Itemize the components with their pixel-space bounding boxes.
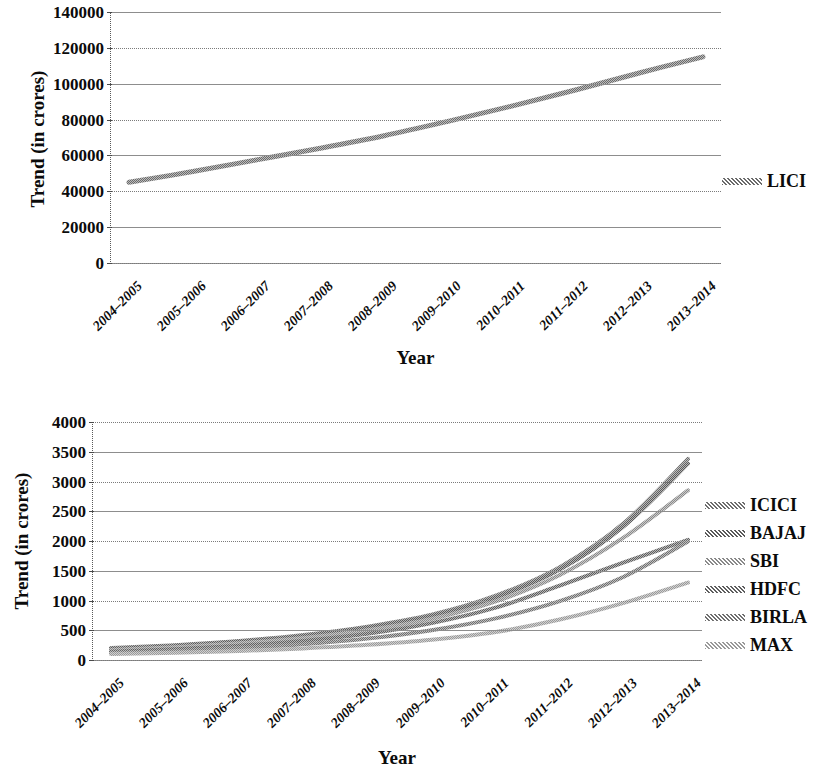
y-tick-mark <box>89 571 94 572</box>
private-insurers-trend-chart: Trend (in crores) 0500100015002000250030… <box>0 390 827 777</box>
y-tick-label: 20000 <box>62 219 105 236</box>
y-tick-mark <box>107 227 112 228</box>
gridline <box>93 571 702 572</box>
bottom-chart-plot-area <box>92 422 702 661</box>
y-tick-label: 1500 <box>52 562 86 579</box>
gridline <box>93 511 702 512</box>
gridline <box>93 422 702 423</box>
gridline <box>111 12 721 13</box>
top-chart-x-tick-labels: 2004–20052005–20062006–20072007–20082008… <box>110 270 721 340</box>
legend-item-lici[interactable]: LICI <box>722 172 806 190</box>
legend-label: LICI <box>767 172 806 190</box>
y-tick-mark <box>107 263 112 264</box>
legend-label: HDFC <box>750 580 801 598</box>
top-chart-plot-area <box>110 12 721 264</box>
y-tick-mark <box>89 601 94 602</box>
x-tick-label: 2007–2008 <box>220 278 337 395</box>
legend-swatch-icon <box>705 558 745 565</box>
legend-label: BAJAJ <box>750 524 806 542</box>
legend-swatch-icon <box>705 530 745 537</box>
legend-item-max[interactable]: MAX <box>705 636 793 654</box>
gridline <box>111 155 721 156</box>
gridline <box>93 452 702 453</box>
y-tick-label: 140000 <box>53 4 104 21</box>
top-chart-y-tick-labels: 020000400006000080000100000120000140000 <box>0 0 104 270</box>
legend-item-hdfc[interactable]: HDFC <box>705 580 801 598</box>
y-tick-label: 0 <box>96 255 105 272</box>
y-tick-mark <box>89 630 94 631</box>
legend-swatch-icon <box>722 178 762 185</box>
x-tick-label: 2012–2013 <box>538 278 655 395</box>
legend-swatch-icon <box>705 586 745 593</box>
x-tick-label: 2008–2009 <box>283 278 400 395</box>
y-tick-mark <box>107 84 112 85</box>
gridline <box>93 541 702 542</box>
y-tick-label: 2500 <box>52 503 86 520</box>
legend-label: BIRLA <box>750 608 807 626</box>
y-tick-mark <box>107 12 112 13</box>
legend-item-sbi[interactable]: SBI <box>705 552 779 570</box>
y-tick-label: 3500 <box>52 443 86 460</box>
y-tick-label: 100000 <box>53 75 104 92</box>
x-tick-label: 2009–2010 <box>347 278 464 395</box>
gridline <box>111 120 721 121</box>
series-line-bajaj <box>111 464 688 649</box>
gridline <box>93 601 702 602</box>
bottom-chart-legend: ICICIBAJAJSBIHDFCBIRLAMAX <box>705 390 827 680</box>
gridline <box>111 84 721 85</box>
y-tick-mark <box>89 422 94 423</box>
top-chart-legend: LICI <box>722 0 827 280</box>
y-tick-label: 2000 <box>52 533 86 550</box>
y-tick-label: 80000 <box>62 111 105 128</box>
gridline <box>93 482 702 483</box>
y-tick-mark <box>89 452 94 453</box>
legend-label: SBI <box>750 552 779 570</box>
y-tick-mark <box>107 48 112 49</box>
legend-item-birla[interactable]: BIRLA <box>705 608 807 626</box>
y-tick-label: 40000 <box>62 183 105 200</box>
y-tick-label: 3000 <box>52 473 86 490</box>
y-tick-label: 500 <box>61 622 87 639</box>
gridline <box>111 227 721 228</box>
y-tick-mark <box>89 660 94 661</box>
series-line-birla <box>111 542 688 653</box>
bottom-chart-x-axis-title: Year <box>92 747 702 769</box>
legend-item-icici[interactable]: ICICI <box>705 496 797 514</box>
gridline <box>111 48 721 49</box>
y-tick-mark <box>89 511 94 512</box>
y-tick-label: 4000 <box>52 414 86 431</box>
bottom-chart-y-tick-labels: 05001000150020002500300035004000 <box>0 390 86 670</box>
top-chart-x-axis-title: Year <box>110 347 721 369</box>
legend-swatch-icon <box>705 642 745 649</box>
y-tick-mark <box>107 191 112 192</box>
y-tick-mark <box>107 120 112 121</box>
gridline <box>93 630 702 631</box>
x-tick-label: 2013–2014 <box>602 278 719 395</box>
x-tick-label: 2006–2007 <box>156 278 273 395</box>
legend-label: ICICI <box>750 496 797 514</box>
legend-swatch-icon <box>705 614 745 621</box>
gridline <box>111 263 721 264</box>
x-tick-label: 2004–2005 <box>28 278 145 395</box>
legend-item-bajaj[interactable]: BAJAJ <box>705 524 806 542</box>
x-tick-label: 2010–2011 <box>411 278 528 395</box>
gridline <box>111 191 721 192</box>
x-tick-label: 2011–2012 <box>475 278 592 395</box>
legend-swatch-icon <box>705 502 745 509</box>
bottom-chart-x-tick-labels: 2004–20052005–20062006–20072007–20082008… <box>92 667 702 737</box>
y-tick-label: 120000 <box>53 39 104 56</box>
y-tick-mark <box>107 155 112 156</box>
y-tick-label: 60000 <box>62 147 105 164</box>
legend-label: MAX <box>750 636 793 654</box>
gridline <box>93 660 702 661</box>
x-tick-label: 2005–2006 <box>92 278 209 395</box>
y-tick-mark <box>89 482 94 483</box>
y-tick-mark <box>89 541 94 542</box>
lici-trend-chart: Trend (in crores) 0200004000060000800001… <box>0 0 827 390</box>
y-tick-label: 0 <box>78 652 87 669</box>
y-tick-label: 1000 <box>52 592 86 609</box>
